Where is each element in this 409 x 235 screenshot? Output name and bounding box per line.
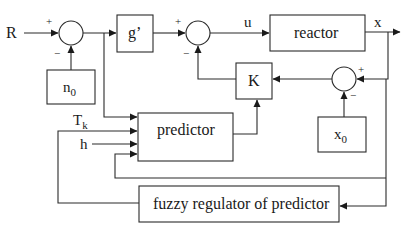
- sum1-minus-sign: −: [54, 47, 60, 59]
- summing-junction-3: [332, 67, 356, 91]
- sum3-minus-sign: −: [350, 89, 356, 101]
- control-block-diagram: R + − n0 g’ + − u reactor x + − x0 K pre…: [0, 0, 409, 235]
- predictor-to-k-arrow: [233, 100, 257, 134]
- sum2-plus-sign: +: [175, 15, 181, 27]
- summing-junction-1: [59, 21, 83, 45]
- sum1-plus-sign: +: [46, 15, 52, 27]
- x-signal-label: x: [374, 14, 382, 30]
- sum3-plus-sign: +: [358, 63, 364, 75]
- summing-junction-2: [186, 21, 210, 45]
- tk-label: Tk: [73, 112, 88, 131]
- tk-input-arrow: [58, 131, 139, 203]
- sum2-minus-sign: −: [183, 47, 189, 59]
- u-signal-label: u: [244, 14, 252, 30]
- input-r-label: R: [6, 24, 17, 41]
- k-to-sum2-arrow: [198, 46, 236, 79]
- h-label: h: [80, 136, 88, 152]
- fuzzy-regulator-label: fuzzy regulator of predictor: [153, 195, 330, 213]
- g-prime-label: g’: [128, 24, 141, 42]
- k-gain-label: K: [248, 72, 260, 89]
- reactor-label: reactor: [294, 24, 339, 41]
- predictor-label: predictor: [157, 121, 215, 139]
